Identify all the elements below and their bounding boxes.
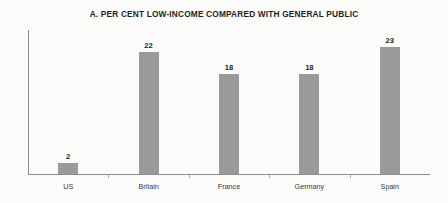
x-axis-tick [189,175,190,178]
bar-us[interactable] [58,163,78,174]
bar-group-us: 2 US [28,30,108,175]
bar-value-spain: 23 [386,36,394,45]
category-label-france: France [218,182,240,191]
bar-group-spain: 23 Spain [350,30,430,175]
bar-value-us: 2 [66,152,70,161]
bar-group-germany: 18 Germany [269,30,349,175]
category-label-us: US [63,182,73,191]
x-axis-tick [350,175,351,178]
bar-spain[interactable] [380,47,400,174]
bar-britain[interactable] [139,52,159,174]
bar-value-britain: 22 [144,41,152,50]
bar-group-britain: 22 Britain [108,30,188,175]
bar-group-france: 18 France [189,30,269,175]
plot-area: 2 US 22 Britain 18 France 18 Germany 23 … [28,30,430,175]
chart-title: A. PER CENT LOW-INCOME COMPARED WITH GEN… [0,9,448,19]
bar-germany[interactable] [299,74,319,174]
bar-value-germany: 18 [305,63,313,72]
bar-france[interactable] [219,74,239,174]
category-label-britain: Britain [138,182,158,191]
x-axis-tick [269,175,270,178]
category-label-spain: Spain [381,182,399,191]
category-label-germany: Germany [295,182,325,191]
figure: A. PER CENT LOW-INCOME COMPARED WITH GEN… [0,0,448,203]
x-axis-tick [108,175,109,178]
bar-value-france: 18 [225,63,233,72]
